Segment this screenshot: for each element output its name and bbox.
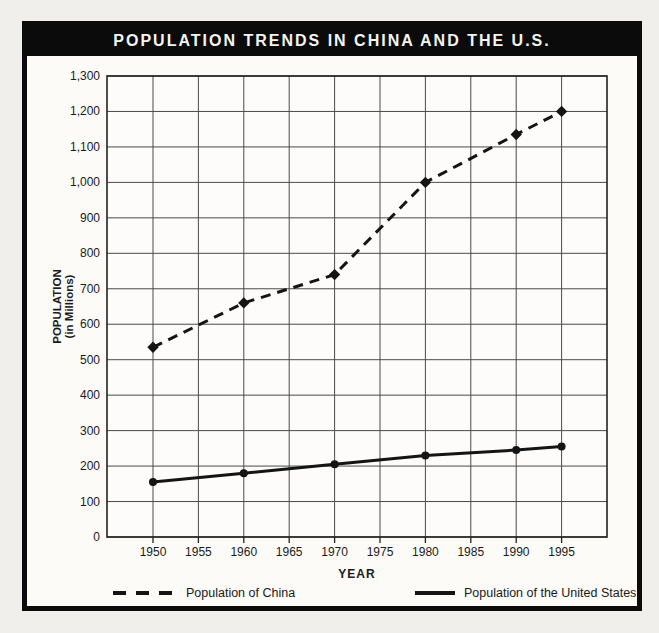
y-axis-label: POPULATION(in Millions) [51,269,75,344]
y-tick-label: 1,200 [70,104,100,118]
y-tick-label: 200 [80,459,100,473]
y-tick-label: 400 [80,388,100,402]
data-point-series1-1970 [331,460,339,468]
x-tick-label: 1980 [412,545,439,559]
y-tick-label: 800 [80,246,100,260]
x-tick-label: 1955 [185,545,212,559]
x-axis-label: YEAR [338,567,375,581]
y-tick-label: 900 [80,211,100,225]
data-point-series1-1980 [421,451,429,459]
chart-figure: POPULATION TRENDS IN CHINA AND THE U.S. … [22,21,642,611]
line-chart: 01002003004005006007008009001,0001,1001,… [27,56,637,606]
x-tick-label: 1950 [140,545,167,559]
x-tick-label: 1965 [276,545,303,559]
data-point-series1-1995 [558,443,566,451]
x-tick-label: 1985 [457,545,484,559]
data-point-series1-1990 [512,446,520,454]
x-tick-label: 1970 [321,545,348,559]
data-point-series1-1950 [149,478,157,486]
chart-title: POPULATION TRENDS IN CHINA AND THE U.S. [113,32,550,50]
legend-label-1: Population of the United States [464,586,636,600]
legend-item-1: Population of the United States [415,586,636,600]
x-tick-label: 1960 [230,545,257,559]
x-tick-label: 1975 [367,545,394,559]
y-tick-label: 600 [80,317,100,331]
y-tick-label: 100 [80,495,100,509]
y-tick-label: 0 [93,530,100,544]
y-tick-label: 500 [80,353,100,367]
plot-background [107,76,607,537]
y-tick-label: 1,000 [70,175,100,189]
y-tick-label: 1,300 [70,69,100,83]
x-tick-label: 1995 [548,545,575,559]
data-point-series1-1960 [240,469,248,477]
chart-area: 01002003004005006007008009001,0001,1001,… [27,56,637,606]
legend-label-0: Population of China [186,586,295,600]
legend-item-0: Population of China [113,586,295,600]
y-tick-label: 300 [80,424,100,438]
y-tick-label: 700 [80,282,100,296]
x-tick-label: 1990 [503,545,530,559]
y-tick-label: 1,100 [70,140,100,154]
chart-title-bar: POPULATION TRENDS IN CHINA AND THE U.S. [27,26,637,56]
